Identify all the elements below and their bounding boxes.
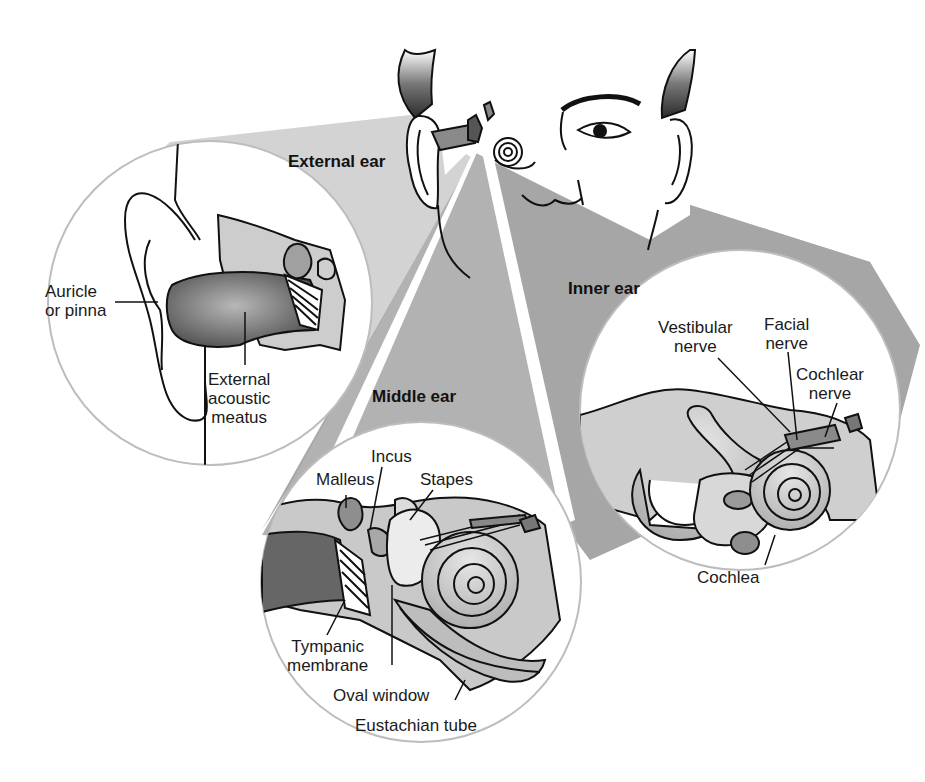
- label-cochlear-nerve: Cochlear nerve: [796, 365, 864, 403]
- section-title-middle-ear: Middle ear: [372, 387, 456, 407]
- section-title-inner-ear: Inner ear: [568, 279, 640, 299]
- ear-anatomy-diagram: [0, 0, 925, 782]
- label-tympanic-membrane: Tympanic membrane: [287, 637, 368, 675]
- label-facial-nerve: Facial nerve: [764, 315, 809, 353]
- label-malleus: Malleus: [316, 470, 375, 489]
- section-title-external-ear: External ear: [288, 152, 385, 172]
- label-external-acoustic-meatus: External acoustic meatus: [208, 370, 270, 427]
- label-incus: Incus: [371, 447, 412, 466]
- label-eustachian-tube: Eustachian tube: [355, 716, 477, 735]
- label-cochlea: Cochlea: [697, 568, 759, 587]
- label-stapes: Stapes: [420, 470, 473, 489]
- label-auricle: Auricle or pinna: [45, 282, 106, 320]
- label-oval-window: Oval window: [333, 686, 429, 705]
- label-vestibular-nerve: Vestibular nerve: [658, 318, 733, 356]
